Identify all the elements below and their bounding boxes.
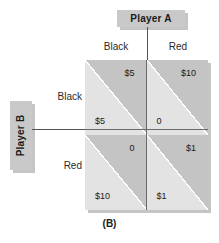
player-a-header-box: Player A bbox=[117, 10, 185, 27]
figure-caption: (B) bbox=[0, 218, 219, 229]
matrix-cell-black-red: $10 0 bbox=[147, 60, 209, 135]
payoff-matrix-figure: Player A Player B Black Red Black Red $5… bbox=[0, 0, 219, 243]
row-header-black: Black bbox=[36, 91, 82, 102]
matrix-cell-black-black: $5 $5 bbox=[85, 60, 147, 135]
payoff-upper-value: $1 bbox=[186, 143, 196, 153]
column-header-black: Black bbox=[86, 41, 146, 52]
player-b-header-box: Player B bbox=[10, 101, 32, 170]
payoff-upper-value: $5 bbox=[124, 68, 134, 78]
payoff-lower-value: 0 bbox=[157, 116, 162, 126]
player-b-label: Player B bbox=[16, 115, 27, 157]
payoff-upper-value: $10 bbox=[181, 68, 196, 78]
payoff-lower-value: $5 bbox=[95, 116, 105, 126]
payoff-upper-value: 0 bbox=[129, 143, 134, 153]
matrix-cell-red-red: $1 $1 bbox=[147, 135, 209, 210]
payoff-matrix: $5 $5 $10 0 0 $10 $1 $1 bbox=[85, 60, 208, 210]
payoff-lower-value: $1 bbox=[157, 191, 167, 201]
payoff-lower-value: $10 bbox=[95, 191, 110, 201]
column-header-red: Red bbox=[148, 41, 208, 52]
row-header-red: Red bbox=[36, 160, 82, 171]
player-a-label: Player A bbox=[130, 13, 171, 24]
matrix-cell-red-black: 0 $10 bbox=[85, 135, 147, 210]
